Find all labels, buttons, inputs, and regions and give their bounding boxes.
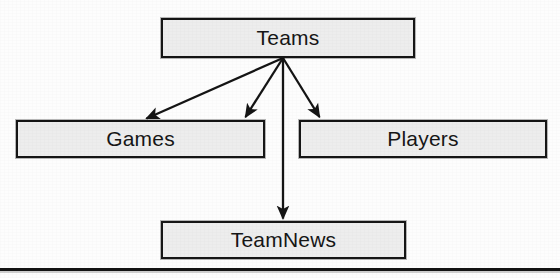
node-teamnews-label: TeamNews bbox=[231, 229, 336, 250]
edge-teams-to-players bbox=[283, 58, 320, 117]
node-games-label: Games bbox=[106, 128, 175, 149]
node-games[interactable]: Games bbox=[16, 120, 265, 158]
bottom-divider-rule bbox=[0, 268, 560, 271]
node-teams[interactable]: Teams bbox=[161, 18, 415, 58]
node-players[interactable]: Players bbox=[299, 120, 547, 158]
node-teamnews[interactable]: TeamNews bbox=[161, 221, 406, 259]
diagram-canvas: Teams Games Players TeamNews bbox=[0, 0, 560, 278]
node-players-label: Players bbox=[387, 128, 458, 149]
node-teams-label: Teams bbox=[257, 27, 320, 48]
